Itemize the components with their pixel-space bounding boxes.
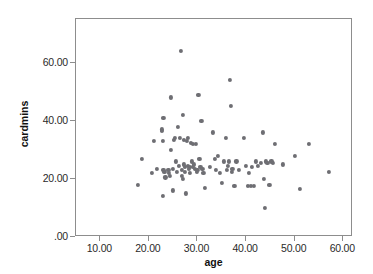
x-axis-tick bbox=[196, 236, 197, 241]
x-axis-tick bbox=[342, 236, 343, 241]
data-point bbox=[252, 184, 256, 188]
data-point bbox=[225, 168, 229, 172]
data-point bbox=[220, 181, 224, 185]
data-point bbox=[267, 183, 271, 187]
data-point bbox=[161, 116, 165, 120]
data-point bbox=[259, 161, 263, 165]
x-axis-tick-label: 10.00 bbox=[87, 242, 112, 254]
data-point bbox=[169, 95, 173, 99]
y-axis-tick bbox=[70, 62, 75, 63]
data-point bbox=[196, 92, 200, 96]
data-point bbox=[160, 139, 164, 143]
data-point bbox=[168, 174, 172, 178]
data-point bbox=[218, 171, 222, 175]
x-axis-tick bbox=[99, 236, 100, 241]
data-point bbox=[230, 167, 234, 171]
plot-area bbox=[75, 18, 352, 236]
x-axis-tick-label: 30.00 bbox=[184, 242, 209, 254]
data-point bbox=[297, 187, 301, 191]
data-point bbox=[293, 154, 297, 158]
data-point bbox=[261, 177, 265, 181]
x-axis-tick bbox=[245, 236, 246, 241]
data-point bbox=[208, 165, 212, 169]
data-point bbox=[271, 161, 275, 165]
data-point bbox=[281, 162, 285, 166]
x-axis-tick bbox=[148, 236, 149, 241]
data-point bbox=[183, 170, 187, 174]
data-point bbox=[140, 156, 144, 160]
data-point bbox=[179, 49, 183, 53]
x-axis-tick-label: 60.00 bbox=[330, 242, 355, 254]
data-point bbox=[327, 170, 331, 174]
data-point bbox=[155, 167, 159, 171]
data-point bbox=[163, 175, 167, 179]
x-axis-tick-label: 40.00 bbox=[232, 242, 257, 254]
scatter-plot-figure: 10.0020.0030.0040.0050.0060.00 .0020.004… bbox=[0, 0, 373, 274]
x-axis-title: age bbox=[75, 256, 352, 268]
data-point bbox=[199, 119, 203, 123]
data-point bbox=[173, 136, 177, 140]
data-point bbox=[226, 159, 230, 163]
data-point bbox=[188, 171, 192, 175]
y-axis-tick bbox=[70, 178, 75, 179]
data-point bbox=[159, 129, 163, 133]
x-axis-tick-label: 20.00 bbox=[135, 242, 160, 254]
data-point bbox=[234, 159, 238, 163]
data-point bbox=[203, 185, 207, 189]
data-point bbox=[169, 148, 173, 152]
y-axis-tick-label: 60.00 bbox=[13, 56, 68, 68]
data-point bbox=[197, 156, 201, 160]
data-point bbox=[211, 130, 215, 134]
data-point bbox=[176, 124, 180, 128]
data-point bbox=[201, 171, 205, 175]
data-points-layer bbox=[76, 19, 351, 235]
data-point bbox=[150, 171, 154, 175]
data-point bbox=[193, 142, 197, 146]
y-axis-tick bbox=[70, 236, 75, 237]
data-point bbox=[232, 184, 236, 188]
y-axis-tick-label: .00 bbox=[13, 230, 68, 242]
data-point bbox=[184, 191, 188, 195]
data-point bbox=[244, 164, 248, 168]
data-point bbox=[262, 206, 266, 210]
data-point bbox=[228, 104, 232, 108]
data-point bbox=[261, 130, 265, 134]
y-axis-tick-label: 20.00 bbox=[13, 172, 68, 184]
data-point bbox=[152, 139, 156, 143]
data-point bbox=[273, 142, 277, 146]
y-axis-title: cardmins bbox=[18, 79, 30, 169]
data-point bbox=[242, 136, 246, 140]
x-axis-tick-label: 50.00 bbox=[281, 242, 306, 254]
data-point bbox=[237, 168, 241, 172]
data-point bbox=[181, 177, 185, 181]
data-point bbox=[181, 113, 185, 117]
data-point bbox=[136, 183, 140, 187]
x-axis-tick bbox=[294, 236, 295, 241]
data-point bbox=[175, 170, 179, 174]
data-point bbox=[216, 154, 220, 158]
data-point bbox=[224, 136, 228, 140]
data-point bbox=[226, 164, 230, 168]
data-point bbox=[247, 171, 251, 175]
data-point bbox=[171, 188, 175, 192]
y-axis-tick bbox=[70, 120, 75, 121]
data-point bbox=[227, 78, 231, 82]
data-point bbox=[307, 142, 311, 146]
data-point bbox=[250, 165, 254, 169]
data-point bbox=[160, 194, 164, 198]
data-point bbox=[222, 159, 226, 163]
